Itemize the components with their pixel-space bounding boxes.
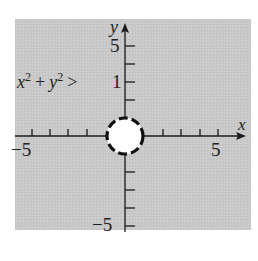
x-axis-label: x — [237, 115, 246, 134]
y-tick-label-5: 5 — [110, 35, 120, 56]
y-tick-label-1: 1 — [112, 71, 122, 92]
y-tick-label-neg5: −5 — [92, 214, 112, 235]
inequality-graph: y x 5 1 −5 −5 5 x2+y2> — [0, 0, 258, 261]
x-tick-label-neg5: −5 — [11, 139, 31, 160]
y-axis-label: y — [108, 17, 118, 37]
x-tick-label-5: 5 — [211, 139, 221, 160]
